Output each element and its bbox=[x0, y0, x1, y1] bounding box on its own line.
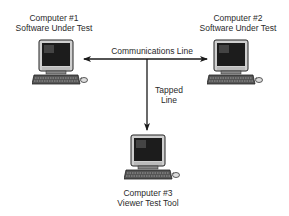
computer-2-icon bbox=[207, 38, 263, 88]
computer-1-subtitle: Software Under Test bbox=[4, 23, 104, 33]
computer-2-subtitle: Software Under Test bbox=[188, 23, 288, 33]
communications-line-label: Communications Line bbox=[97, 46, 207, 56]
computer-3-icon bbox=[124, 133, 180, 183]
computer-3-subtitle: Viewer Test Tool bbox=[98, 198, 198, 208]
computer-2-title: Computer #2 bbox=[188, 13, 288, 23]
computer-1-label: Computer #1 Software Under Test bbox=[4, 13, 104, 33]
computer-1-title: Computer #1 bbox=[4, 13, 104, 23]
computer-3-label: Computer #3 Viewer Test Tool bbox=[98, 188, 198, 208]
computer-1-icon bbox=[32, 38, 88, 88]
tapped-line-label: Tapped Line bbox=[152, 85, 186, 105]
computer-2-label: Computer #2 Software Under Test bbox=[188, 13, 288, 33]
computer-3-title: Computer #3 bbox=[98, 188, 198, 198]
